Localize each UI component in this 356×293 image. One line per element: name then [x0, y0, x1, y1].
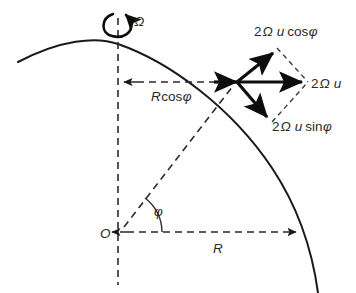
- vector-2omega-u-cos-phi: [237, 53, 273, 82]
- svg-text:2Ωusinφ: 2Ωusinφ: [272, 119, 332, 134]
- vector-2omega-u-sin-phi: [237, 82, 267, 117]
- sin-coefficient: 2: [272, 119, 280, 134]
- label-radius-r: R: [213, 241, 223, 256]
- sin-function-name: sin: [305, 119, 322, 134]
- sin-u-symbol: u: [295, 119, 303, 134]
- sin-omega-symbol: Ω: [281, 119, 291, 134]
- svg-text:2Ωu: 2Ωu: [311, 76, 342, 91]
- vec-omega-symbol: Ω: [320, 76, 330, 91]
- cos-function-name: cos: [287, 24, 308, 39]
- cos-coefficient: 2: [254, 24, 262, 39]
- sin-phi-symbol: φ: [323, 119, 332, 134]
- label-rcosphi: Rcosφ: [151, 89, 192, 104]
- vec-coefficient: 2: [311, 76, 319, 91]
- radius-to-point-line: [124, 86, 233, 227]
- cos-phi-symbol: φ: [309, 24, 318, 39]
- vector-parallelogram: [272, 48, 308, 122]
- rcos-r-symbol: R: [151, 89, 161, 104]
- earth-surface-arc: [18, 40, 318, 293]
- omega-label: Ω: [134, 14, 144, 29]
- rcos-function-name: cos: [161, 89, 182, 104]
- diagram-canvas: Ω: [0, 0, 356, 293]
- label-2omega-u-sin-phi: 2Ωusinφ: [272, 119, 332, 134]
- svg-text:2Ωucosφ: 2Ωucosφ: [254, 24, 318, 39]
- label-angle-phi: φ: [154, 204, 163, 219]
- label-2omega-u-cos-phi: 2Ωucosφ: [254, 24, 318, 39]
- rcos-phi-symbol: φ: [183, 89, 192, 104]
- svg-text:Rcosφ: Rcosφ: [151, 89, 192, 104]
- cos-omega-symbol: Ω: [263, 24, 273, 39]
- label-origin-o: O: [100, 226, 111, 241]
- cos-u-symbol: u: [277, 24, 285, 39]
- vec-u-symbol: u: [334, 76, 342, 91]
- coriolis-diagram: Ω: [0, 0, 356, 293]
- label-2omega-u: 2Ωu: [311, 76, 342, 91]
